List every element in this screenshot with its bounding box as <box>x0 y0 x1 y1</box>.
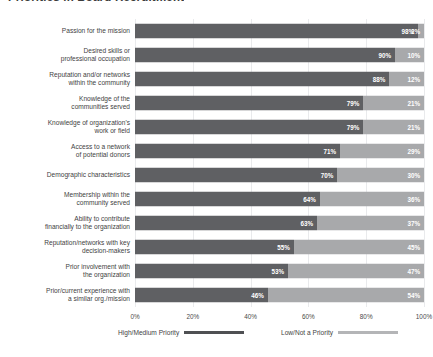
category-label-line: within the community <box>4 79 130 87</box>
bar-value-label: 47% <box>407 268 424 275</box>
category-label-line: professional occupation <box>4 55 130 63</box>
bar-row: Desired skills orprofessional occupation… <box>0 43 433 67</box>
x-axis-tick: 40% <box>244 313 257 320</box>
x-axis-tick: 0% <box>130 313 139 320</box>
x-axis-tick: 20% <box>186 313 199 320</box>
bar-value-label: 10% <box>407 52 424 59</box>
category-label: Prior involvement withthe organization <box>4 263 130 279</box>
stacked-bar: 70%30% <box>135 168 424 183</box>
legend-item-high-medium-priority: High/Medium Priority <box>118 329 244 336</box>
bar-value-label: 63% <box>300 220 317 227</box>
stacked-bar: 71%29% <box>135 144 424 159</box>
bar-value-label: 30% <box>407 172 424 179</box>
category-label-line: Knowledge of the <box>4 95 130 103</box>
stacked-bar: 79%21% <box>135 96 424 111</box>
category-label: Reputation and/or networkswithin the com… <box>4 71 130 87</box>
category-label: Desired skills orprofessional occupation <box>4 47 130 63</box>
bar-value-label: 37% <box>407 220 424 227</box>
category-label: Reputation/networks with keydecision-mak… <box>4 239 130 255</box>
category-label-line: financially to the organization <box>4 223 130 231</box>
bar-value-label: 71% <box>324 148 341 155</box>
stacked-bar: 46%54% <box>135 288 424 303</box>
bar-segment-low-not-a-priority: 12% <box>389 72 424 87</box>
category-label: Knowledge of thecommunities served <box>4 95 130 111</box>
bar-row: Ability to contributefinancially to the … <box>0 211 433 235</box>
bar-value-label: 36% <box>407 196 424 203</box>
category-label-line: the organization <box>4 271 130 279</box>
category-label-line: communities served <box>4 103 130 111</box>
bar-row: Membership within thecommunity served64%… <box>0 187 433 211</box>
bar-row: Access to a networkof potential donors71… <box>0 139 433 163</box>
bar-segment-high-medium-priority: 71% <box>135 144 340 159</box>
stacked-bar: 64%36% <box>135 192 424 207</box>
bar-segment-low-not-a-priority: 54% <box>268 288 424 303</box>
bar-value-label: 55% <box>277 244 294 251</box>
bar-rows: Passion for the mission98%2%Desired skil… <box>0 19 433 307</box>
legend-swatch-high-medium-priority <box>184 331 244 334</box>
category-label-line: community served <box>4 199 130 207</box>
bar-row: Reputation and/or networkswithin the com… <box>0 67 433 91</box>
category-label: Access to a networkof potential donors <box>4 143 130 159</box>
category-label-line: Access to a network <box>4 143 130 151</box>
category-label-line: decision-makers <box>4 247 130 255</box>
bar-segment-low-not-a-priority: 30% <box>337 168 424 183</box>
bar-segment-high-medium-priority: 98% <box>135 24 418 39</box>
bar-segment-high-medium-priority: 63% <box>135 216 317 231</box>
bar-segment-high-medium-priority: 55% <box>135 240 294 255</box>
bar-value-label: 53% <box>272 268 289 275</box>
bar-row: Prior/current experience witha similar o… <box>0 283 433 307</box>
stacked-bar: 63%37% <box>135 216 424 231</box>
stacked-bar: 79%21% <box>135 120 424 135</box>
bar-segment-low-not-a-priority: 29% <box>340 144 424 159</box>
bar-value-label: 64% <box>303 196 320 203</box>
legend-item-low-not-a-priority: Low/Not a Priority <box>281 329 398 336</box>
bar-segment-high-medium-priority: 46% <box>135 288 268 303</box>
category-label-line: Reputation and/or networks <box>4 71 130 79</box>
category-label-line: a similar org./mission <box>4 295 130 303</box>
bar-segment-low-not-a-priority: 10% <box>395 48 424 63</box>
category-label: Knowledge of organization'swork or field <box>4 119 130 135</box>
category-label: Demographic characteristics <box>4 171 130 179</box>
bar-value-label: 90% <box>378 52 395 59</box>
category-label-line: Desired skills or <box>4 47 130 55</box>
bar-value-label: 70% <box>321 172 338 179</box>
bar-row: Reputation/networks with keydecision-mak… <box>0 235 433 259</box>
category-label: Prior/current experience witha similar o… <box>4 287 130 303</box>
bar-segment-high-medium-priority: 70% <box>135 168 337 183</box>
bar-segment-high-medium-priority: 88% <box>135 72 389 87</box>
bar-row: Knowledge of organization'swork or field… <box>0 115 433 139</box>
category-label: Passion for the mission <box>4 27 130 35</box>
category-label-line: Prior/current experience with <box>4 287 130 295</box>
bar-value-label: 46% <box>251 292 268 299</box>
bar-segment-low-not-a-priority: 21% <box>363 120 424 135</box>
category-label-line: Demographic characteristics <box>4 171 130 179</box>
bar-value-label: 12% <box>407 76 424 83</box>
chart-container: Priorities in Board Recruitment Passion … <box>0 0 433 357</box>
bar-value-label: 54% <box>407 292 424 299</box>
bar-row: Demographic characteristics70%30% <box>0 163 433 187</box>
legend-swatch-low-not-a-priority <box>338 331 398 334</box>
stacked-bar: 55%45% <box>135 240 424 255</box>
bar-value-label: 29% <box>407 148 424 155</box>
legend-label-high-medium-priority: High/Medium Priority <box>118 329 179 336</box>
x-axis-tick: 60% <box>302 313 315 320</box>
bar-segment-low-not-a-priority: 37% <box>317 216 424 231</box>
category-label: Membership within thecommunity served <box>4 191 130 207</box>
stacked-bar: 88%12% <box>135 72 424 87</box>
bar-row: Knowledge of thecommunities served79%21% <box>0 91 433 115</box>
category-label-line: Ability to contribute <box>4 215 130 223</box>
category-label-line: of potential donors <box>4 151 130 159</box>
bar-value-label: 45% <box>407 244 424 251</box>
stacked-bar: 98%2% <box>135 24 424 39</box>
bar-row: Prior involvement withthe organization53… <box>0 259 433 283</box>
bar-segment-low-not-a-priority: 47% <box>288 264 424 279</box>
bar-value-label: 21% <box>407 100 424 107</box>
bar-segment-low-not-a-priority: 45% <box>294 240 424 255</box>
category-label-line: Reputation/networks with key <box>4 239 130 247</box>
bar-value-label: 21% <box>407 124 424 131</box>
category-label-line: Knowledge of organization's <box>4 119 130 127</box>
stacked-bar: 53%47% <box>135 264 424 279</box>
chart-title: Priorities in Board Recruitment <box>8 0 184 3</box>
chart-legend: High/Medium Priority Low/Not a Priority <box>118 329 433 343</box>
bar-segment-low-not-a-priority: 2% <box>418 24 424 39</box>
